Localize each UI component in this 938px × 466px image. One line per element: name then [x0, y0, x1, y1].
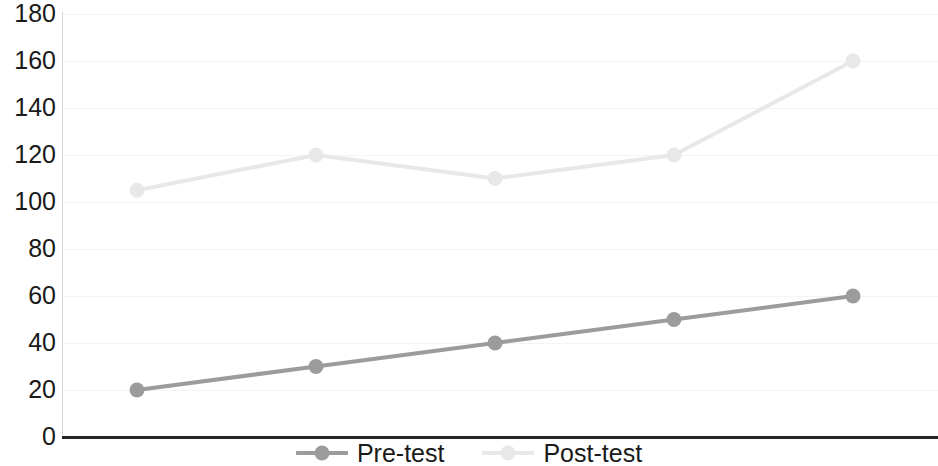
legend-swatch-icon [296, 444, 348, 462]
data-point-marker [488, 171, 503, 186]
chart-legend: Pre-testPost-test [0, 440, 938, 466]
legend-label: Post-test [543, 441, 642, 466]
data-series-layer [130, 54, 861, 398]
data-point-marker [309, 359, 324, 374]
series-line [137, 61, 853, 190]
legend-swatch-icon [482, 444, 534, 462]
legend-entry[interactable]: Post-test [482, 441, 642, 466]
data-point-marker [309, 148, 324, 163]
gridlines [62, 15, 938, 391]
data-point-marker [130, 183, 145, 198]
legend-entry[interactable]: Pre-test [296, 441, 445, 466]
data-point-marker [846, 289, 861, 304]
legend-label: Pre-test [357, 441, 445, 466]
data-point-marker [130, 383, 145, 398]
data-point-marker [667, 148, 682, 163]
data-point-marker [667, 312, 682, 327]
line-chart: 180160140120100806040200 Pre-testPost-te… [0, 0, 938, 466]
data-point-marker [488, 336, 503, 351]
plot-area [0, 0, 938, 466]
data-point-marker [846, 54, 861, 69]
